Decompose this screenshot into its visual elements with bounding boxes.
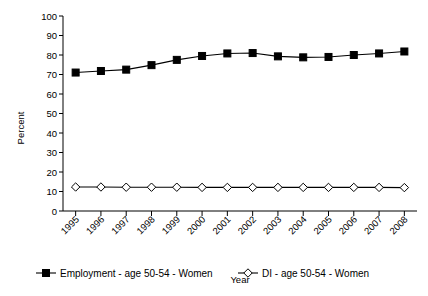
series-layer — [71, 48, 408, 192]
x-tick-label: 1998 — [134, 214, 157, 237]
y-tick-label: 30 — [46, 147, 57, 158]
data-point-marker — [375, 183, 383, 191]
legend-filled-square-icon — [43, 270, 50, 277]
data-point-marker — [400, 183, 408, 191]
data-point-marker — [224, 50, 231, 57]
x-tick-label: 2005 — [311, 214, 334, 237]
x-axis-tick-labels: 1995199619971998199920002001200220032004… — [58, 214, 409, 237]
data-point-marker — [97, 183, 105, 191]
y-axis-title: Percent — [15, 111, 26, 144]
data-point-marker — [299, 183, 307, 191]
y-tick-label: 60 — [46, 89, 57, 100]
x-tick-label: 2002 — [235, 214, 258, 237]
y-axis-tick-marks — [59, 16, 63, 211]
data-point-marker — [376, 50, 383, 57]
chart-legend: Employment - age 50-54 - WomenDI - age 5… — [36, 268, 369, 279]
x-tick-label: 1999 — [159, 214, 182, 237]
data-point-marker — [248, 183, 256, 191]
x-tick-label: 2000 — [185, 214, 208, 237]
data-point-marker — [401, 48, 408, 55]
data-point-marker — [71, 183, 79, 191]
data-point-marker — [173, 183, 181, 191]
data-point-marker — [173, 56, 180, 63]
legend-label: Employment - age 50-54 - Women — [60, 268, 213, 279]
data-point-marker — [223, 183, 231, 191]
data-point-marker — [249, 50, 256, 57]
x-tick-label: 2001 — [210, 214, 233, 237]
y-tick-label: 0 — [52, 206, 57, 217]
data-point-marker — [350, 52, 357, 59]
x-tick-label: 2003 — [261, 214, 284, 237]
x-tick-label: 2006 — [336, 214, 359, 237]
x-tick-label: 2007 — [362, 214, 385, 237]
y-tick-label: 20 — [46, 167, 57, 178]
series-1 — [72, 48, 408, 76]
data-point-marker — [199, 52, 206, 59]
data-point-marker — [123, 66, 130, 73]
y-tick-label: 70 — [46, 69, 57, 80]
x-tick-label: 1996 — [84, 214, 107, 237]
data-point-marker — [198, 183, 206, 191]
x-tick-label: 1995 — [58, 214, 81, 237]
data-point-marker — [324, 183, 332, 191]
data-point-marker — [274, 53, 281, 60]
data-point-marker — [147, 183, 155, 191]
legend-item-2[interactable]: DI - age 50-54 - Women — [238, 268, 369, 279]
x-tick-label: 2004 — [286, 214, 309, 237]
legend-label: DI - age 50-54 - Women — [262, 268, 369, 279]
data-point-marker — [325, 53, 332, 60]
series-2 — [71, 183, 408, 192]
data-point-marker — [122, 183, 130, 191]
legend-item-1[interactable]: Employment - age 50-54 - Women — [36, 268, 213, 279]
y-tick-label: 100 — [41, 11, 57, 22]
y-tick-label: 10 — [46, 186, 57, 197]
data-point-marker — [274, 183, 282, 191]
x-tick-label: 2008 — [387, 214, 410, 237]
y-axis-tick-labels: 0102030405060708090100 — [41, 11, 57, 217]
y-tick-label: 40 — [46, 128, 57, 139]
x-tick-label: 1997 — [109, 214, 132, 237]
y-tick-label: 50 — [46, 108, 57, 119]
data-point-marker — [148, 62, 155, 69]
data-point-marker — [72, 69, 79, 76]
y-tick-label: 80 — [46, 50, 57, 61]
data-point-marker — [300, 54, 307, 61]
line-chart: 0102030405060708090100 19951996199719981… — [0, 0, 428, 296]
y-tick-label: 90 — [46, 30, 57, 41]
chart-container: 0102030405060708090100 19951996199719981… — [0, 0, 428, 296]
data-point-marker — [350, 183, 358, 191]
data-point-marker — [97, 67, 104, 74]
